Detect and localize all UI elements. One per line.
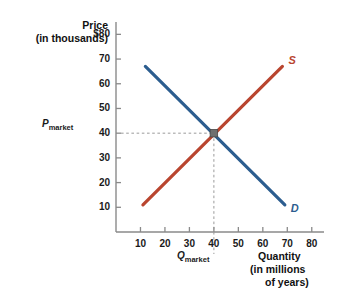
y-tick-label: 60 xyxy=(70,78,110,89)
y-tick-label: 70 xyxy=(70,53,110,64)
y-tick-label: $80 xyxy=(70,28,110,39)
x-axis-title-line3: of years) xyxy=(265,276,309,289)
y-tick-label: 30 xyxy=(70,152,110,163)
y-tick-label: 10 xyxy=(70,201,110,212)
y-axis-ticks xyxy=(116,34,121,207)
supply-demand-chart: Price (in thousands) Quantity (in millio… xyxy=(0,0,347,306)
x-axis-title-line1: Quantity xyxy=(258,250,301,263)
demand-curve-label: D xyxy=(291,202,299,214)
y-tick-label: 40 xyxy=(70,127,110,138)
p-market-label: Pmarket xyxy=(42,118,73,132)
x-axis-ticks xyxy=(140,227,311,232)
supply-curve-label: S xyxy=(288,54,295,66)
y-tick-label: 50 xyxy=(70,102,110,113)
q-market-label: Qmarket xyxy=(177,250,209,264)
y-tick-label: 20 xyxy=(70,177,110,188)
equilibrium-point-marker xyxy=(210,129,218,137)
x-axis-title-line2: (in millions xyxy=(250,263,305,276)
x-tick-label: 80 xyxy=(297,238,327,249)
